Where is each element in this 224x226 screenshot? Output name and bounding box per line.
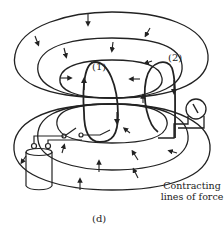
- battery-cell: [26, 136, 82, 190]
- loop-2-label: (2): [168, 52, 182, 63]
- caption-line-2: lines of force: [160, 191, 224, 202]
- lower-outer-field-line: [14, 104, 210, 190]
- caption-line-1: Contracting: [160, 180, 224, 191]
- induction-diagram: (1) (2) Contracting lines of force (d): [0, 0, 224, 226]
- subfigure-label: (d): [92, 213, 106, 224]
- upper-middle-field-line: [38, 38, 182, 98]
- loop-1-label: (1): [92, 61, 106, 72]
- loop-1: [83, 62, 118, 142]
- galvanometer: [158, 99, 206, 138]
- caption: Contracting lines of force: [160, 180, 224, 202]
